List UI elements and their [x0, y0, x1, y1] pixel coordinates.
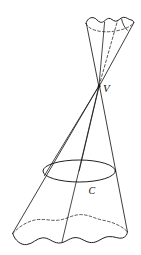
upper-rim-seam: [122, 19, 128, 30]
cone-diagram-svg: V C: [0, 0, 141, 255]
upper-rim-hidden-arc: [86, 23, 134, 32]
upper-nappe-group: [86, 17, 134, 86]
lower-nappe-axis-ruling: [79, 87, 99, 171]
lower-rim-hidden-arc: [13, 215, 128, 234]
vertex-label: V: [103, 82, 111, 94]
lower-rim-wavy-edge: [13, 232, 128, 245]
lower-nappe-ruling-3: [44, 87, 98, 176]
upper-rim-wavy-edge: [86, 17, 134, 23]
lower-nappe-group: C: [13, 86, 128, 244]
cone-diagram-figure: V C: [0, 0, 141, 255]
lower-nappe-right-generator: [100, 87, 128, 232]
directrix-label-c: C: [89, 185, 96, 196]
upper-nappe-left-generator: [86, 24, 98, 86]
upper-nappe-right-generator: [99, 23, 133, 86]
